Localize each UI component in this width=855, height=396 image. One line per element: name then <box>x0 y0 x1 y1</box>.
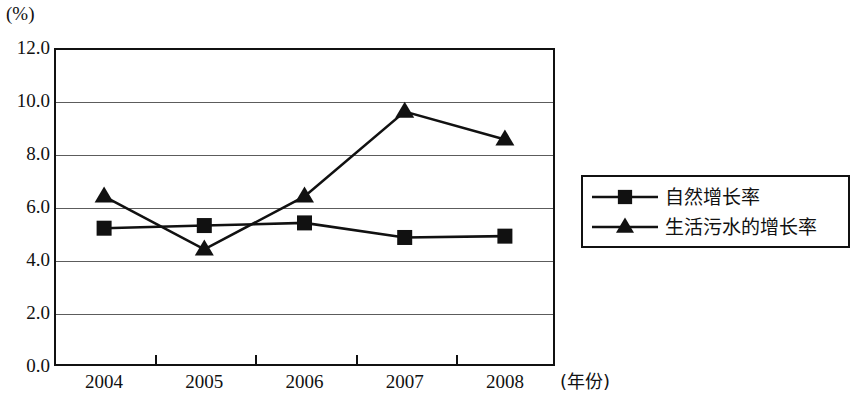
y-axis-tick-label: 12.0 <box>2 38 50 57</box>
y-axis-tick-labels: 12.010.08.06.04.02.00.0 <box>0 0 50 396</box>
legend-entry: 自然增长率 <box>591 182 760 212</box>
triangle-marker <box>616 218 634 233</box>
y-axis-tick-label: 8.0 <box>2 144 50 163</box>
square-marker <box>618 190 632 204</box>
legend-marker-sample <box>591 216 659 238</box>
legend-label: 生活污水的增长率 <box>665 216 817 238</box>
line-chart-figure: (%) 12.010.08.06.04.02.00.0 (年份) 2004200… <box>0 0 855 396</box>
gridline <box>56 208 553 209</box>
x-axis-tick-label: 2008 <box>465 370 545 394</box>
triangle-marker-legend-icon <box>591 216 659 238</box>
gridline <box>56 155 553 156</box>
x-axis-tick-mark <box>255 355 257 364</box>
x-axis-tick-label: 2006 <box>265 370 345 394</box>
x-axis-tick-mark <box>155 355 157 364</box>
legend-entry: 生活污水的增长率 <box>591 212 817 242</box>
x-axis-unit-label: (年份) <box>560 370 610 394</box>
x-axis-tick-label: 2005 <box>164 370 244 394</box>
x-axis-tick-label: 2007 <box>365 370 445 394</box>
legend-label: 自然增长率 <box>665 186 760 208</box>
x-axis-tick-labels: (年份) 20042005200620072008 <box>0 368 855 396</box>
gridline <box>56 261 553 262</box>
legend-marker-sample <box>591 186 659 208</box>
y-axis-tick-label: 10.0 <box>2 91 50 110</box>
chart-legend: 自然增长率生活污水的增长率 <box>581 175 850 248</box>
gridline <box>56 102 553 103</box>
y-axis-tick-label: 4.0 <box>2 250 50 269</box>
x-axis-tick-mark <box>456 355 458 364</box>
y-axis-tick-label: 2.0 <box>2 303 50 322</box>
x-axis-tick-label: 2004 <box>64 370 144 394</box>
square-marker-legend-icon <box>591 186 659 208</box>
plot-area <box>54 48 555 366</box>
gridline <box>56 314 553 315</box>
y-axis-tick-label: 6.0 <box>2 197 50 216</box>
x-axis-tick-mark <box>356 355 358 364</box>
